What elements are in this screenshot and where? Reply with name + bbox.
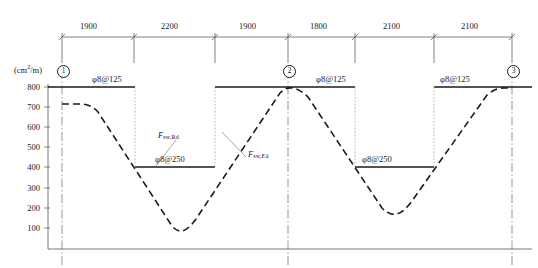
- diagram-svg: [0, 0, 538, 268]
- figure-canvas: 1900 2200 1900 1800 2100 2100 (cm2/m) 1 …: [0, 0, 538, 268]
- dimension-chain: [59, 33, 515, 63]
- y-tick-label-300: 300: [14, 183, 40, 193]
- y-tick-label-700: 700: [14, 102, 40, 112]
- y-axis-unit-label: (cm2/m): [14, 64, 42, 75]
- y-tick-label-100: 100: [14, 223, 40, 233]
- node-marker-1: 1: [57, 65, 70, 78]
- dimension-label-4: 1800: [310, 21, 327, 31]
- y-axis-ticks: [44, 87, 50, 228]
- demand-envelope-curve: [62, 88, 512, 231]
- resistance-label-sub: sw,Rd: [163, 134, 179, 140]
- demand-curve-label: Fsw,Ed: [248, 149, 269, 159]
- rebar-label-5: φ8@125: [440, 74, 470, 84]
- y-tick-label-600: 600: [14, 122, 40, 132]
- rebar-label-4: φ8@250: [362, 154, 392, 164]
- y-tick-label-200: 200: [14, 203, 40, 213]
- leader-demand: [222, 132, 246, 157]
- rebar-label-2: φ8@250: [155, 154, 185, 164]
- resistance-curve-label: Fsw,Rd: [158, 130, 179, 140]
- y-tick-label-800: 800: [14, 82, 40, 92]
- resistance-step-curve: [48, 87, 532, 167]
- dimension-label-3: 1900: [239, 21, 256, 31]
- dimension-label-2: 2200: [161, 21, 178, 31]
- y-tick-label-500: 500: [14, 142, 40, 152]
- dimension-label-6: 2100: [461, 21, 478, 31]
- dimension-label-5: 2100: [383, 21, 400, 31]
- dimension-label-1: 1900: [80, 21, 97, 31]
- node-marker-3: 3: [507, 65, 520, 78]
- demand-label-sub: sw,Ed: [253, 153, 268, 159]
- y-tick-label-400: 400: [14, 162, 40, 172]
- rebar-label-1: φ8@125: [92, 74, 122, 84]
- support-centrelines: [62, 70, 512, 265]
- axes: [48, 84, 532, 249]
- node-marker-2: 2: [283, 65, 296, 78]
- rebar-label-3: φ8@125: [316, 74, 346, 84]
